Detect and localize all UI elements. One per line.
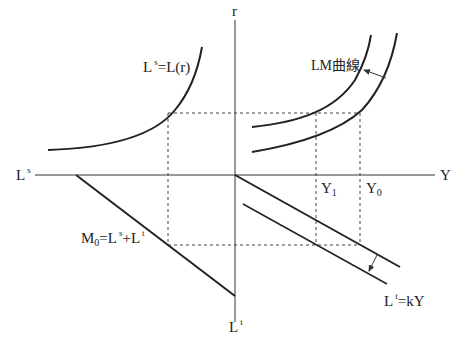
axis-label-lt: Lt — [229, 318, 243, 335]
dashed-guides — [168, 113, 360, 245]
axis-label-r: r — [232, 4, 237, 19]
axis-label-y: Y — [440, 168, 451, 183]
transaction-shift-arrow — [369, 255, 377, 271]
lm-shift-arrow — [364, 70, 386, 78]
label-money-supply: M0=Ls+Lt — [81, 229, 145, 248]
transaction-demand-line-shifted — [243, 204, 387, 284]
lm-curve-diagram: r Ls Y Lt Ls=L(r) LM曲線 M0=Ls+Lt Lt=kY Y1… — [0, 0, 466, 349]
tick-label-y0: Y0 — [366, 181, 382, 198]
label-transaction-demand: Lt=kY — [384, 292, 424, 309]
lm-curve-inner — [252, 35, 371, 127]
label-lm-curve: LM曲線 — [311, 59, 360, 73]
tick-label-y1: Y1 — [321, 181, 337, 198]
lm-curve-outer — [252, 33, 397, 152]
axis-label-ls: Ls — [16, 166, 31, 183]
label-speculative-demand: Ls=L(r) — [143, 58, 190, 75]
